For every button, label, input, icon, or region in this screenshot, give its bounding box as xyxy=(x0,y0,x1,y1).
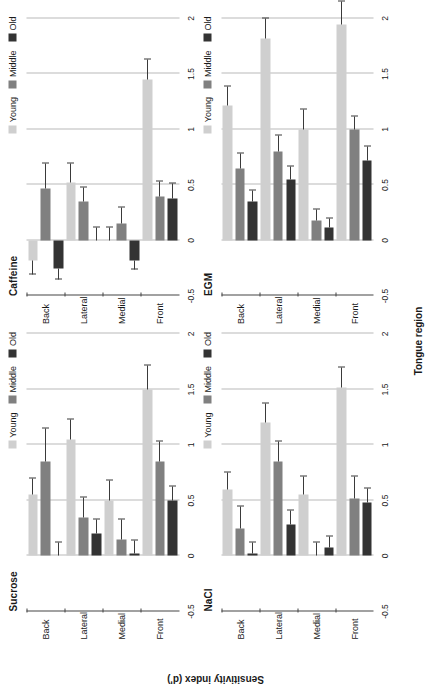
error-bar-cap xyxy=(249,541,256,542)
error-bar-cap xyxy=(29,477,36,478)
bar-slot xyxy=(284,18,297,296)
error-bar-cap xyxy=(363,487,370,488)
y-tick-label: 1.5 xyxy=(379,383,389,395)
error-bar xyxy=(172,183,173,197)
legend-swatch-icon xyxy=(8,440,16,448)
bar-young xyxy=(222,489,232,556)
error-bar-cap xyxy=(236,152,243,153)
y-tick-label: 1.5 xyxy=(185,68,195,80)
error-bar xyxy=(264,18,265,38)
error-bar xyxy=(277,441,278,461)
legend-item-middle: Middle xyxy=(202,366,212,404)
legend-label: Young xyxy=(7,412,17,437)
y-tick-label: 0.5 xyxy=(185,179,195,191)
error-bar xyxy=(121,519,122,539)
legend-label: Young xyxy=(202,97,212,122)
legend-item-old: Old xyxy=(202,332,212,357)
bar-slot xyxy=(26,18,39,296)
error-bar xyxy=(353,116,354,129)
legend-item-middle: Middle xyxy=(7,50,17,88)
plot-area: -0.500.511.52BackLateralMedialFront xyxy=(26,334,179,612)
error-bar xyxy=(264,403,265,422)
bar-middle xyxy=(40,461,50,555)
panel-title: Caffeine xyxy=(7,255,18,295)
bar-group-lateral: Lateral xyxy=(259,18,297,296)
panel-title: EGM xyxy=(202,272,213,295)
legend: YoungMiddleOld xyxy=(202,16,212,133)
bar-slot xyxy=(246,334,259,612)
bar-group-back: Back xyxy=(221,18,259,296)
bar-slot xyxy=(360,334,373,612)
error-bar xyxy=(32,260,33,274)
error-bar-cap xyxy=(325,217,332,218)
y-tick-label: 2 xyxy=(185,331,195,336)
error-bar-cap xyxy=(312,541,319,542)
legend-item-old: Old xyxy=(7,16,17,41)
bar-young xyxy=(260,422,270,555)
bar-slot xyxy=(26,334,39,612)
category-label: Medial xyxy=(116,297,126,324)
bar-slot xyxy=(153,18,166,296)
bar-old xyxy=(324,227,334,240)
error-bar-cap xyxy=(118,206,125,207)
category-label: Back xyxy=(235,303,245,323)
y-tick-label: 2 xyxy=(379,16,389,21)
bar-young xyxy=(298,129,308,240)
error-bar xyxy=(277,135,278,152)
bar-slot xyxy=(102,334,115,612)
legend-swatch-icon xyxy=(203,349,211,357)
error-bar-cap xyxy=(67,418,74,419)
category-label: Lateral xyxy=(273,296,283,324)
error-bar xyxy=(252,542,253,553)
error-bar xyxy=(57,542,58,555)
category-label: Front xyxy=(349,618,359,639)
bar-group-front: Front xyxy=(140,334,178,612)
bar-slot xyxy=(221,334,234,612)
error-bar xyxy=(341,367,342,387)
bar-young xyxy=(104,500,114,556)
bar-young xyxy=(142,79,152,240)
error-bar xyxy=(159,441,160,461)
error-bar xyxy=(353,476,354,498)
bar-slot xyxy=(233,334,246,612)
bar-slot xyxy=(259,18,272,296)
legend-label: Old xyxy=(7,16,17,30)
bar-group-medial: Medial xyxy=(297,334,335,612)
bar-middle xyxy=(78,517,88,556)
bar-middle xyxy=(116,223,126,240)
bar-slot xyxy=(51,18,64,296)
error-bar-cap xyxy=(54,278,61,279)
legend-item-young: Young xyxy=(7,412,17,448)
bar-slot xyxy=(39,18,52,296)
error-bar xyxy=(45,428,46,461)
error-bar xyxy=(328,536,329,547)
bar-slot xyxy=(322,334,335,612)
bar-young xyxy=(222,105,232,240)
error-bar-cap xyxy=(105,226,112,227)
error-bar xyxy=(121,207,122,224)
bar-group-back: Back xyxy=(26,334,64,612)
bar-old xyxy=(362,160,372,240)
legend-swatch-icon xyxy=(203,125,211,133)
error-bar xyxy=(290,510,291,524)
error-bar xyxy=(315,542,316,555)
bar-young xyxy=(66,439,76,556)
bar-group-front: Front xyxy=(335,18,373,296)
legend-swatch-icon xyxy=(203,80,211,88)
bar-old xyxy=(91,533,101,555)
bar-middle xyxy=(349,129,359,240)
error-bar-cap xyxy=(131,268,138,269)
error-bar-cap xyxy=(338,0,345,1)
plot-area: -0.500.511.52BackLateralMedialFront xyxy=(221,334,374,612)
legend-item-middle: Middle xyxy=(202,50,212,88)
bar-middle xyxy=(155,196,165,240)
bar-young xyxy=(336,387,346,556)
error-bar xyxy=(57,268,58,279)
legend-label: Old xyxy=(202,16,212,30)
error-bar xyxy=(252,190,253,201)
bar-slot xyxy=(297,334,310,612)
y-tick-label: 1 xyxy=(379,442,389,447)
bar-slot xyxy=(284,334,297,612)
